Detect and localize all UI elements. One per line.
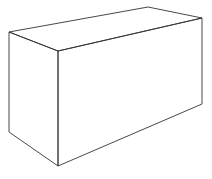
box-left-face [9, 32, 58, 166]
box-top-face [9, 7, 202, 51]
box-front-face [58, 18, 202, 166]
box-drawing [0, 0, 212, 179]
